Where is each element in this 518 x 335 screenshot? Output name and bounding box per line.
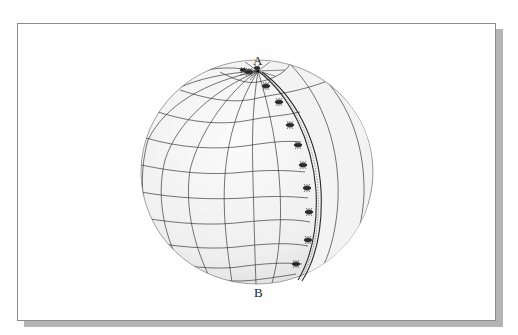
point-a-label: A bbox=[253, 54, 262, 67]
sphere-icon bbox=[141, 60, 373, 284]
point-b-label: B bbox=[254, 286, 263, 299]
